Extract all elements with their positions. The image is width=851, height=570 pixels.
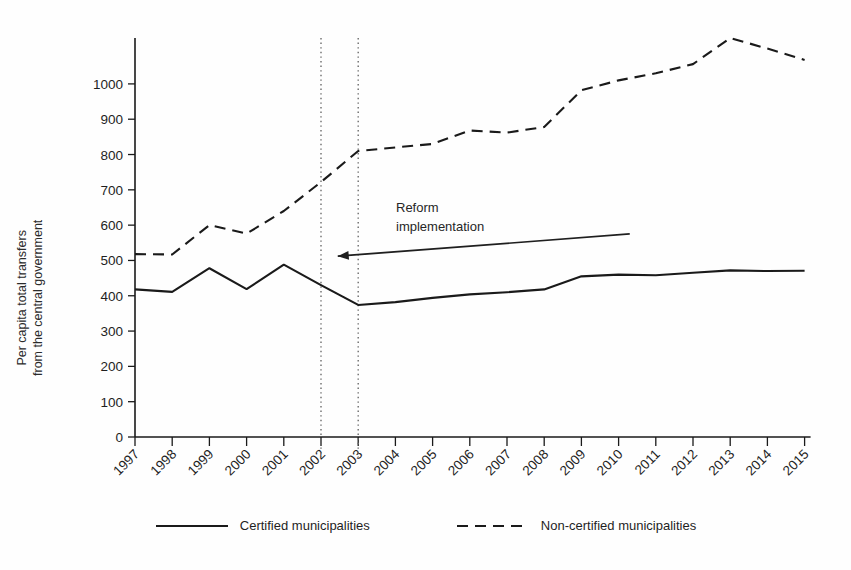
chart-legend: Certified municipalities Non-certified m… [0,518,851,533]
annotation-line-1: Reform [396,198,484,217]
x-tick-label: 2003 [333,447,365,479]
y-tick-label: 300 [100,324,123,339]
x-tick-label: 2000 [222,447,254,479]
x-tick-label: 2008 [519,447,551,479]
x-tick-label: 2007 [482,447,514,479]
x-tick-label: 2004 [371,446,403,478]
y-axis-title-line-2: from the central government [30,220,46,376]
x-tick-label: 2012 [668,447,700,479]
x-tick-label: 2002 [296,447,328,479]
x-tick-label: 1997 [110,447,142,479]
legend-key-dashed-line [456,520,530,532]
x-tick-label: 2011 [632,447,663,478]
reference-lines [321,38,358,457]
y-tick-label: 400 [100,289,123,304]
x-tick-label: 2009 [557,447,589,479]
y-tick-label: 0 [115,430,123,445]
chart-figure: 01002003004005006007008009001000 1997199… [0,0,851,570]
y-tick-label: 600 [100,218,123,233]
legend-item-non-certified: Non-certified municipalities [456,518,696,533]
y-tick-label: 200 [100,359,123,374]
x-tick-label: 1999 [185,447,217,479]
x-tick-label: 2014 [743,446,775,478]
x-axis-ticks: 1997199819992000200120022003200420052006… [110,437,811,478]
y-tick-label: 900 [100,112,123,127]
reform-implementation-annotation: Reform implementation [396,198,484,236]
y-axis-title: Per capita total transfers from the cent… [14,96,48,376]
x-tick-label: 2005 [408,447,440,479]
x-tick-label: 2006 [445,447,477,479]
legend-key-solid-line [155,520,229,532]
y-tick-label: 500 [100,253,123,268]
y-axis-title-line-1: Per capita total transfers [14,220,30,376]
x-tick-label: 2001 [259,447,291,479]
x-tick-label: 2010 [594,447,626,479]
x-tick-label: 2015 [780,447,812,479]
y-tick-label: 800 [100,148,123,163]
legend-item-certified: Certified municipalities [155,518,370,533]
axis-lines [135,38,811,437]
y-tick-label: 1000 [93,77,123,92]
annotation-line-2: implementation [396,217,484,236]
y-tick-label: 100 [100,395,123,410]
y-axis-ticks: 01002003004005006007008009001000 [93,77,135,445]
legend-label-certified: Certified municipalities [240,518,370,533]
series-line-solid [135,265,805,305]
annotation-arrow [338,234,630,260]
x-tick-label: 2013 [705,447,737,479]
y-tick-label: 700 [100,183,123,198]
annotation-arrow-shaft [338,234,630,256]
legend-label-non-certified: Non-certified municipalities [541,518,696,533]
line-chart-canvas: 01002003004005006007008009001000 1997199… [0,0,851,570]
x-tick-label: 1998 [147,447,179,479]
data-series [135,38,805,305]
